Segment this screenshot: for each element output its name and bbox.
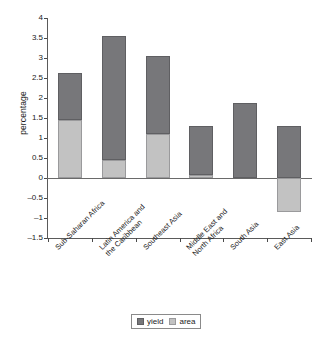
bar-segment-yield (277, 126, 301, 178)
x-tick (223, 238, 224, 242)
y-axis-tick-label: 2 (14, 93, 43, 102)
y-axis-tick-label: 2.5 (14, 73, 43, 82)
y-axis-tick-label: 3 (14, 53, 43, 62)
y-axis-tick-label: –0.5 (14, 193, 43, 202)
bar-segment-area (189, 175, 213, 178)
x-tick (180, 238, 181, 242)
legend-item-area: area (169, 317, 195, 326)
legend-label-yield: yield (147, 317, 163, 326)
bar-segment-area (146, 134, 170, 178)
y-axis-tick-label: –1 (14, 213, 43, 222)
y-axis-line (47, 18, 48, 238)
bar-segment-yield (58, 73, 82, 120)
y-axis-tick-label: 1.5 (14, 113, 43, 122)
x-tick (311, 238, 312, 242)
x-axis-label: Latin America and the Caribbean (98, 203, 153, 258)
x-tick (267, 238, 268, 242)
x-tick (48, 238, 49, 242)
y-axis-tick-label: 4 (14, 13, 43, 22)
bar-segment-area (102, 160, 126, 178)
legend-swatch-area-icon (169, 318, 176, 325)
bar-segment-yield (233, 103, 257, 178)
chart-legend: yield area (131, 314, 201, 329)
y-axis-tick-label: 0.5 (14, 153, 43, 162)
legend-label-area: area (179, 317, 195, 326)
x-tick (92, 238, 93, 242)
x-axis-label: South Asia (229, 220, 261, 252)
y-axis-tick-label: 0 (14, 173, 43, 182)
bar-segment-area (277, 178, 301, 212)
bar-segment-yield (189, 126, 213, 175)
legend-swatch-yield-icon (137, 318, 144, 325)
x-axis-label: Middle East and North Africa (185, 207, 236, 258)
bar-chart: percentage –1.5–1–0.500.511.522.533.54 S… (0, 0, 320, 346)
x-tick (136, 238, 137, 242)
bar-segment-area (58, 120, 82, 178)
bar-segment-yield (146, 56, 170, 134)
y-axis-tick-label: 3.5 (14, 33, 43, 42)
legend-item-yield: yield (137, 317, 163, 326)
y-axis-tick-label: –1.5 (14, 233, 43, 242)
bar-segment-yield (102, 36, 126, 160)
zero-baseline (47, 178, 312, 179)
y-axis-tick-label: 1 (14, 133, 43, 142)
